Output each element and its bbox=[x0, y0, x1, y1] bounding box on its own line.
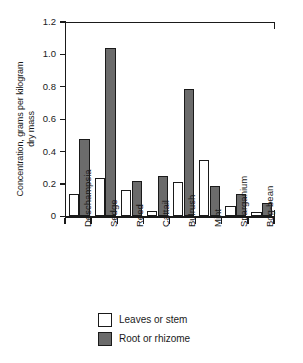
x-tick-0 bbox=[64, 218, 65, 224]
bar-sparganium-leaves-or-stem bbox=[225, 206, 235, 217]
x-category-label-reed: Reed bbox=[135, 204, 145, 227]
legend-label-leaves: Leaves or stem bbox=[119, 314, 187, 325]
bar-sedge-leaves-or-stem bbox=[95, 178, 105, 216]
y-tick-3 bbox=[60, 119, 66, 120]
y-tick-label-3: 0.6 bbox=[16, 114, 56, 124]
bar-chart-figure: Concentration, grams per kilogram dry ma… bbox=[0, 0, 303, 363]
y-tick-5 bbox=[60, 54, 66, 55]
y-tick-label-1: 0.2 bbox=[16, 179, 56, 189]
legend-item-leaves: Leaves or stem bbox=[98, 310, 258, 329]
bar-reed-leaves-or-stem bbox=[121, 190, 131, 217]
bar-sedge-root-or-rhizome bbox=[105, 48, 115, 216]
axis-top-right-cap bbox=[274, 22, 275, 29]
bar-bulrush-leaves-or-stem bbox=[173, 182, 183, 216]
bar-cattail-leaves-or-stem bbox=[147, 211, 157, 216]
legend-swatch-leaves bbox=[98, 313, 112, 327]
bar-bog-bean-leaves-or-stem bbox=[251, 212, 261, 216]
y-axis-title: Concentration, grams per kilogram dry ma… bbox=[15, 29, 37, 229]
y-tick-2 bbox=[60, 151, 66, 152]
x-category-label-cattail: Cattail bbox=[161, 200, 171, 227]
y-tick-4 bbox=[60, 86, 66, 87]
x-category-label-mint: Mint bbox=[213, 209, 223, 227]
y-tick-label-6: 1.2 bbox=[16, 17, 56, 27]
y-tick-label-4: 0.8 bbox=[16, 82, 56, 92]
x-category-label-bulrush: Bulrush bbox=[187, 195, 197, 227]
legend-item-root: Root or rhizome bbox=[98, 329, 258, 348]
legend-label-root: Root or rhizome bbox=[119, 333, 190, 344]
bar-mint-leaves-or-stem bbox=[199, 160, 209, 217]
chart-legend: Leaves or stemRoot or rhizome bbox=[98, 310, 258, 348]
y-tick-6 bbox=[60, 21, 66, 22]
bar-deschampsia-leaves-or-stem bbox=[69, 194, 79, 217]
x-category-label-sedge: Sedge bbox=[109, 200, 119, 227]
legend-swatch-root bbox=[98, 332, 112, 346]
x-category-label-sparganium: Sparganium bbox=[239, 176, 249, 227]
x-category-label-deschampsia: Deschampsia bbox=[83, 169, 93, 227]
y-tick-label-0: 0 bbox=[16, 211, 56, 221]
y-tick-1 bbox=[60, 183, 66, 184]
y-tick-label-2: 0.4 bbox=[16, 147, 56, 157]
x-category-label-bog-bean: Bog-bean bbox=[265, 186, 275, 227]
y-tick-label-5: 1.0 bbox=[16, 49, 56, 59]
